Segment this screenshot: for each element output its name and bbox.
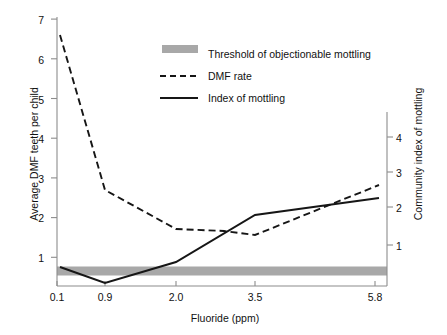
plot-area (0, 0, 447, 335)
threshold-band (57, 267, 387, 276)
left-axis-ticks (51, 19, 57, 257)
right-axis-ticks (387, 137, 393, 245)
legend-swatch-threshold (162, 45, 198, 53)
chart-container: Average DMF teeth per child Community in… (0, 0, 447, 335)
